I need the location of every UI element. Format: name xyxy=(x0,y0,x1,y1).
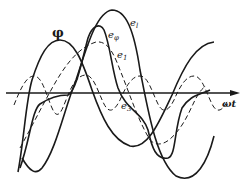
waveform-plot xyxy=(0,0,244,182)
label-e-l: el xyxy=(130,18,138,30)
label-e-phi: eφ xyxy=(108,30,119,42)
label-e-l-sub: l xyxy=(136,22,138,30)
label-e-3: e3 xyxy=(121,101,131,113)
label-phi: φ xyxy=(52,26,64,39)
label-e-1-sub: 1 xyxy=(123,54,127,62)
label-e-1: e1 xyxy=(117,50,127,62)
axis-arrow-icon xyxy=(230,90,240,96)
curve-e-phi xyxy=(20,26,210,168)
curve-e-1 xyxy=(20,42,206,148)
label-e-3-sub: 3 xyxy=(127,105,131,113)
axis-label-omega-t: ωt xyxy=(222,99,236,109)
label-e-phi-sub: φ xyxy=(114,34,119,42)
label-phi-text: φ xyxy=(52,25,64,40)
